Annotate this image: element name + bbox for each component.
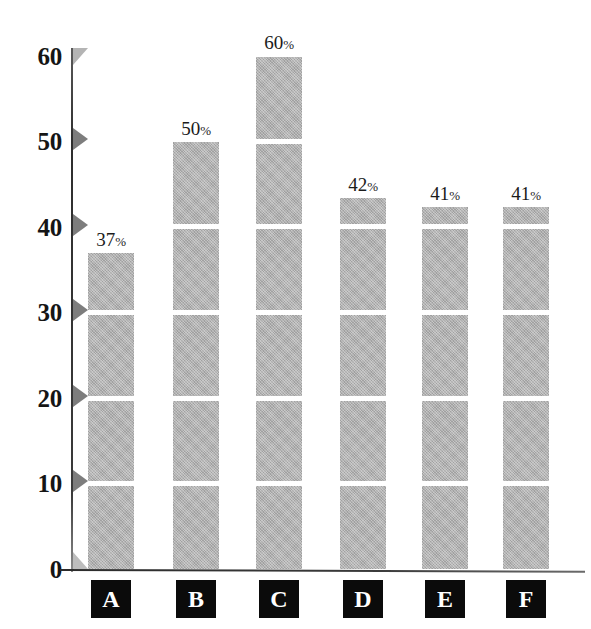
bar-e-gridgap-20 (422, 396, 468, 401)
bar-value-f-suffix: % (530, 188, 540, 203)
bar-b (173, 142, 219, 569)
bar-value-a-number: 37 (96, 229, 115, 250)
bar-c-gridgap-50 (256, 139, 302, 144)
bar-chart: 60 50 40 30 20 10 0 37% (0, 0, 591, 629)
bar-d-gridgap-20 (340, 396, 386, 401)
bar-a-gridgap-20 (88, 396, 134, 401)
y-tick-marker-30-icon (73, 299, 88, 321)
y-tick-marker-10-icon (73, 470, 88, 492)
x-category-f: F (506, 580, 546, 618)
x-axis-line (60, 569, 585, 573)
bar-value-f-number: 41 (511, 183, 530, 204)
bar-c-gridgap-30 (256, 310, 302, 315)
y-tick-label-0: 0 (0, 557, 62, 582)
x-category-b: B (176, 580, 216, 618)
y-tick-marker-0-icon (73, 552, 88, 569)
bar-f (503, 207, 549, 569)
bar-b-gridgap-40 (173, 224, 219, 229)
bar-f-gridgap-20 (503, 396, 549, 401)
x-category-e: E (425, 580, 465, 618)
bar-value-c-number: 60 (264, 32, 283, 53)
bar-value-f: 41% (466, 184, 586, 203)
bar-d-gridgap-40 (340, 224, 386, 229)
bar-b-gridgap-20 (173, 396, 219, 401)
bar-b-gridgap-10 (173, 481, 219, 486)
bar-value-d-suffix: % (367, 179, 377, 194)
bar-d-gridgap-10 (340, 481, 386, 486)
bar-value-b: 50% (136, 119, 256, 138)
y-tick-label-50: 50 (0, 129, 62, 154)
x-category-c: C (259, 580, 299, 618)
bar-a-gridgap-30 (88, 310, 134, 315)
bar-e-gridgap-40 (422, 224, 468, 229)
y-tick-label-60: 60 (0, 44, 62, 69)
bar-value-e-number: 41 (430, 183, 449, 204)
bar-value-a: 37% (51, 230, 171, 249)
bar-d-gridgap-30 (340, 310, 386, 315)
bar-e-gridgap-30 (422, 310, 468, 315)
x-category-d: D (343, 580, 383, 618)
bar-value-d-number: 42 (348, 174, 367, 195)
y-tick-marker-20-icon (73, 385, 88, 407)
x-category-a: A (91, 580, 131, 618)
bar-value-c-suffix: % (283, 37, 293, 52)
bar-b-gridgap-30 (173, 310, 219, 315)
bar-e-gridgap-10 (422, 481, 468, 486)
bar-value-c: 60% (219, 33, 339, 52)
bar-c-gridgap-40 (256, 224, 302, 229)
bar-value-b-suffix: % (200, 123, 210, 138)
bar-d (340, 198, 386, 569)
bar-value-e-suffix: % (449, 188, 459, 203)
bar-a-gridgap-10 (88, 481, 134, 486)
y-tick-label-30: 30 (0, 300, 62, 325)
bar-e (422, 207, 468, 569)
y-tick-label-20: 20 (0, 386, 62, 411)
y-tick-label-10: 10 (0, 471, 62, 496)
bar-a (88, 253, 134, 569)
y-tick-marker-60-icon (73, 48, 88, 65)
y-tick-marker-50-icon (73, 128, 88, 150)
bar-value-b-number: 50 (181, 118, 200, 139)
y-axis-line (71, 48, 73, 572)
bar-f-gridgap-30 (503, 310, 549, 315)
bar-c-gridgap-10 (256, 481, 302, 486)
bar-f-gridgap-40 (503, 224, 549, 229)
bar-f-gridgap-10 (503, 481, 549, 486)
bar-value-a-suffix: % (115, 234, 125, 249)
bar-c-gridgap-20 (256, 396, 302, 401)
